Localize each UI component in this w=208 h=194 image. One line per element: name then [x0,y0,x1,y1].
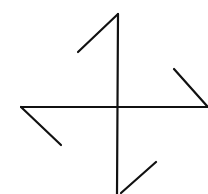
top-hook [78,14,118,52]
pinwheel-svg [0,0,208,194]
vertical-stem [117,14,118,194]
pinwheel-diagram [0,0,208,194]
right-hook [174,69,207,106]
left-hook [21,107,61,145]
bottom-hook [121,162,156,193]
